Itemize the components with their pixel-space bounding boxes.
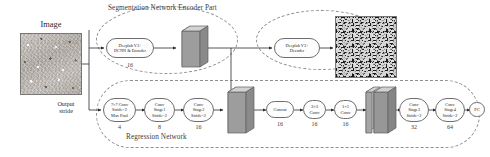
node-conv-stage2-label: Conv Stage2 Stride=2: [191, 102, 206, 118]
node-fc-label: FC: [474, 107, 480, 112]
node-conv-stage1-channels: 8: [144, 124, 175, 130]
node-conv-stage1[interactable]: Conv Stage1 Stride=2: [144, 98, 175, 122]
node-deeplab-decoder[interactable]: Deeplab V3+ Decoder: [274, 38, 320, 58]
node-conv-stage2[interactable]: Conv Stage2 Stride=2: [183, 98, 214, 122]
connectors-layer: [0, 0, 490, 157]
node-conv-stage3-label: Conv Stage3 Stride=2: [407, 102, 422, 118]
encoder-channels-label: 16: [106, 62, 154, 68]
node-conv7x7[interactable]: 7×7 Conv Stride=2 Max Pool: [103, 98, 136, 122]
node-conv3x3-label: 3×3 Conv: [310, 104, 320, 115]
segmentation-output-texture: [335, 16, 397, 78]
node-concat-channels: 16: [266, 121, 294, 127]
node-conv-stage1-label: Conv Stage1 Stride=2: [152, 102, 167, 118]
encoder-feature-map: [182, 26, 208, 67]
node-conv3x3-channels: 16: [303, 121, 326, 127]
regression-feature-map: [228, 87, 254, 133]
node-deeplab-encoder-label: Deeplab V3+ DCNN & Encoder: [114, 43, 146, 53]
node-conv-stage3-channels: 32: [399, 124, 429, 130]
node-concat-label: Concat: [273, 107, 286, 112]
fused-feature-map: [366, 87, 396, 133]
node-conv-stage4-label: Conv Stage4 Stride=2: [443, 102, 458, 118]
node-conv1x1-channels: 16: [334, 121, 357, 127]
node-conv-stage4[interactable]: Conv Stage4 Stride=2: [435, 98, 465, 122]
diagram-canvas: Segmentation Network Encoder Part Regres…: [0, 0, 490, 157]
node-deeplab-decoder-label: Deeplab V3+ Decoder: [286, 43, 309, 53]
node-fc[interactable]: FC: [469, 102, 485, 117]
node-conv1x1-label: 1×1 Conv: [341, 104, 351, 115]
node-conv7x7-label: 7×7 Conv Stride=2 Max Pool: [111, 102, 128, 118]
node-concat[interactable]: Concat: [266, 101, 294, 118]
node-conv-stage4-channels: 64: [435, 124, 465, 130]
node-deeplab-encoder[interactable]: Deeplab V3+ DCNN & Encoder: [106, 38, 154, 58]
node-conv7x7-channels: 4: [103, 124, 136, 130]
node-conv-stage3[interactable]: Conv Stage3 Stride=2: [399, 98, 429, 122]
node-conv3x3[interactable]: 3×3 Conv: [303, 100, 326, 119]
node-conv1x1[interactable]: 1×1 Conv: [334, 100, 357, 119]
node-conv-stage2-channels: 16: [183, 124, 214, 130]
